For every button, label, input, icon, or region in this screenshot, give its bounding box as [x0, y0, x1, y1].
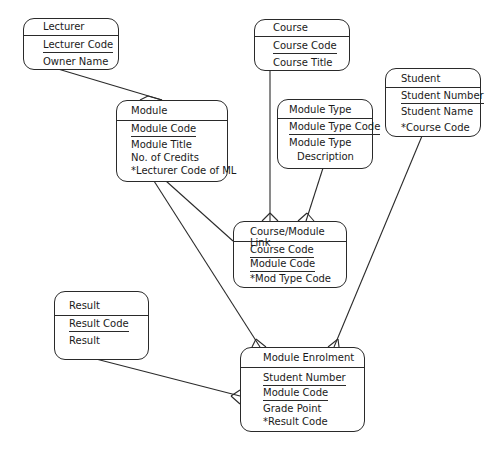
attribute: Grade Point: [263, 403, 322, 415]
attribute-foreign-key: *Course Code: [401, 122, 470, 134]
attribute: Module Title: [131, 139, 192, 151]
entity-course[interactable]: Course Course Code Course Title: [254, 19, 350, 71]
er-diagram: Lecturer Lecturer Code Owner Name Course…: [0, 0, 498, 450]
attribute-primary-key: Student Number: [401, 90, 484, 104]
entity-module[interactable]: Module Module Code Module Title No. of C…: [116, 100, 228, 182]
entity-title: Lecturer: [43, 21, 84, 32]
attribute-primary-key: Student Number: [263, 372, 346, 386]
relationship-lecturer-module: [58, 69, 162, 100]
entity-title: Module Enrolment: [263, 352, 354, 363]
attribute-primary-key: Course Code: [273, 40, 337, 54]
entity-title: Module Type: [289, 104, 352, 115]
entity-course-module-link[interactable]: Course/Module Link Course Code Module Co…: [233, 221, 347, 288]
entity-student[interactable]: Student Student Number Student Name *Cou…: [385, 68, 481, 137]
entity-title: Result: [69, 300, 100, 311]
attribute: Course Title: [273, 57, 333, 69]
attribute: Owner Name: [43, 56, 108, 68]
attribute-foreign-key: *Lecturer Code of ML: [131, 165, 236, 177]
attribute-primary-key: Module Code: [131, 123, 196, 137]
attribute: Student Name: [401, 106, 473, 118]
attribute: Description: [297, 151, 354, 163]
attribute-primary-key: Module Type Code: [289, 121, 380, 135]
attribute-primary-key: Module Code: [263, 387, 328, 401]
relationship-result-enrolment: [96, 359, 240, 396]
entity-title: Module: [131, 105, 167, 116]
attribute-primary-key: Lecturer Code: [43, 39, 113, 53]
entity-title: Course: [273, 22, 308, 33]
attribute: No. of Credits: [131, 152, 199, 164]
relationship-module-link: [166, 181, 233, 241]
attribute-foreign-key: *Result Code: [263, 416, 328, 428]
entity-module-type[interactable]: Module Type Module Type Code Module Type…: [277, 99, 373, 169]
attribute-primary-key: Result Code: [69, 318, 129, 332]
attribute: Result: [69, 335, 100, 347]
attribute-foreign-key: *Mod Type Code: [250, 273, 331, 285]
entity-lecturer[interactable]: Lecturer Lecturer Code Owner Name: [23, 18, 119, 70]
entity-title: Student: [401, 73, 440, 84]
relationship-moduletype-link: [306, 168, 323, 221]
attribute: Module Type: [289, 137, 352, 149]
entity-module-enrolment[interactable]: Module Enrolment Student Number Module C…: [240, 347, 365, 432]
attribute-primary-key: Module Code: [250, 258, 315, 272]
attribute-primary-key: Course Code: [250, 244, 314, 258]
entity-result[interactable]: Result Result Code Result: [54, 291, 149, 360]
